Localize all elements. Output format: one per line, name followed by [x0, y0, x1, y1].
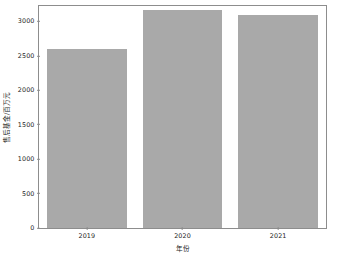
bar	[238, 15, 317, 228]
y-axis-tick: 1000	[18, 156, 39, 162]
y-axis-tick-label: 2000	[18, 87, 37, 93]
y-axis-title-label: 售后基金/百万元	[5, 91, 12, 142]
y-axis-tick: 2500	[18, 53, 39, 59]
y-axis-tick: 3000	[18, 18, 39, 24]
x-axis-tick-label: 2021	[270, 233, 287, 239]
bar	[143, 10, 222, 228]
y-axis-tick: 0	[30, 225, 39, 231]
y-axis-tick-label: 1000	[18, 156, 37, 162]
x-axis-title-label: 年份	[176, 245, 190, 253]
x-axis-tick: 2020	[174, 228, 191, 239]
y-axis-tick-label: 2500	[18, 53, 37, 59]
y-axis-tick-label: 500	[22, 190, 37, 196]
y-axis-tick-label: 1500	[18, 122, 37, 128]
plot-area: 050010001500200025003000201920202021	[38, 5, 327, 229]
x-axis-title: 年份	[38, 246, 327, 253]
x-axis-tick-label: 2019	[78, 233, 95, 239]
y-axis-tick: 2000	[18, 87, 39, 93]
y-axis-title: 售后基金/百万元	[2, 5, 14, 229]
x-axis-tick-mark	[86, 227, 87, 230]
y-axis-tick-mark	[37, 21, 40, 22]
y-axis-tick-mark	[37, 90, 40, 91]
y-axis-tick-mark	[37, 228, 40, 229]
x-axis-tick-mark	[278, 227, 279, 230]
y-axis-tick-mark	[37, 124, 40, 125]
x-axis-tick-mark	[182, 227, 183, 230]
y-axis-tick-mark	[37, 193, 40, 194]
x-axis-tick: 2021	[270, 228, 287, 239]
x-axis-tick: 2019	[78, 228, 95, 239]
bar	[47, 49, 126, 228]
y-axis-tick: 500	[22, 190, 39, 196]
y-axis-tick-label: 3000	[18, 18, 37, 24]
x-axis-tick-label: 2020	[174, 233, 191, 239]
y-axis-tick-label: 0	[30, 225, 37, 231]
y-axis-tick-mark	[37, 55, 40, 56]
bar-chart-figure: 050010001500200025003000201920202021 售后基…	[0, 0, 340, 265]
y-axis-tick: 1500	[18, 122, 39, 128]
y-axis-tick-mark	[37, 159, 40, 160]
